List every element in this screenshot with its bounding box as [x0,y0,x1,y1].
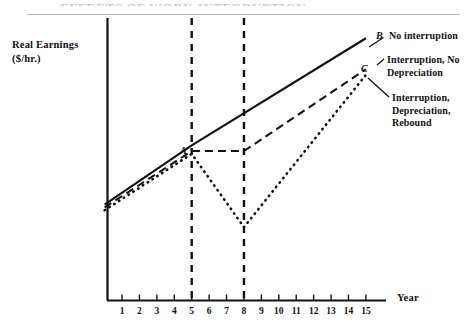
x-axis-tick-label: 11 [288,306,304,316]
x-axis-tick-label: 12 [306,306,322,316]
series-line-1 [105,69,366,207]
legend-interruption-no-depreciation: Interruption, No Depreciation [387,54,460,79]
x-axis-tick-label: 1 [114,306,130,316]
legend-interruption-depreciation-rebound: Interruption, Depreciation, Rebound [392,92,451,130]
chart-figure: EFFECTS OF WORK INTERRUPTION Real Earnin… [0,0,476,328]
series-line-0 [105,38,366,204]
x-axis-tick-label: 7 [219,306,235,316]
x-axis-tick-label: 10 [271,306,287,316]
interruption-markers [192,18,244,300]
x-axis-tick-label: 14 [340,306,356,316]
point-label-c: C [361,63,368,74]
x-axis-label: Year [397,292,419,303]
annotation-leader-lines [368,38,389,98]
axes [107,18,386,301]
x-axis-tick-label: 6 [201,306,217,316]
x-axis-tick-label: 4 [166,306,182,316]
plot-area [0,0,476,328]
leader-line-c [377,59,384,65]
point-label-b: B [376,30,383,41]
data-series-group [105,38,366,227]
x-axis-tick-label: 2 [131,306,147,316]
x-axis-tick-label: 8 [236,306,252,316]
x-axis-tick-label: 5 [184,306,200,316]
point-label-a: A [180,145,187,156]
x-axis-tick-label: 15 [358,306,374,316]
legend-no-interruption: No interruption [389,30,458,43]
x-axis-tick-label: 9 [253,306,269,316]
x-axis-tick-label: 13 [323,306,339,316]
leader-line-rebound [368,78,389,97]
x-axis-tick-label: 3 [149,306,165,316]
